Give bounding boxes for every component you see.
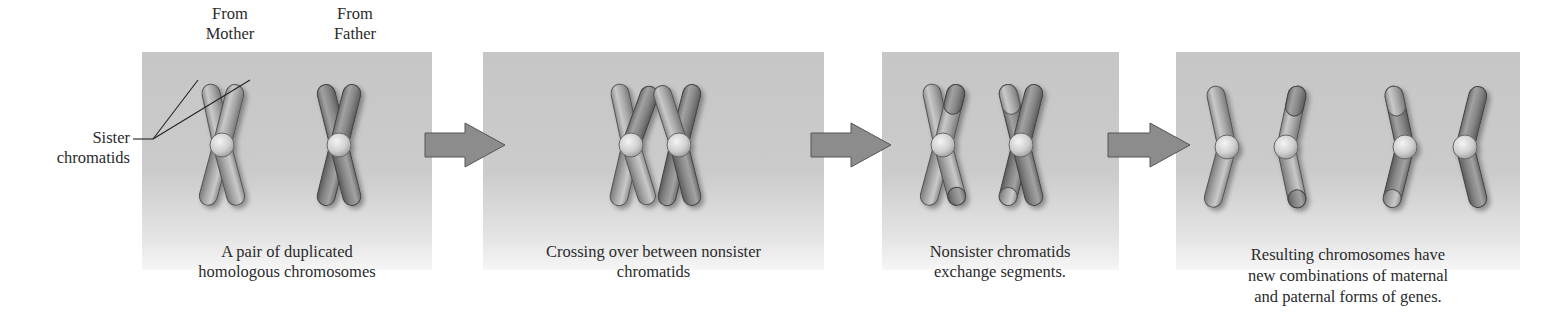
exchanged-maternal-chromosome [918, 82, 967, 207]
result-chromosome-1 [1202, 84, 1239, 209]
arrow-icon [1108, 123, 1190, 167]
result-chromosome-4 [1453, 85, 1489, 210]
paternal-chromosome [315, 83, 362, 208]
label-from-father: From Father [315, 4, 395, 44]
exchanged-paternal-chromosome [997, 83, 1044, 208]
result-chromosome-2 [1274, 84, 1308, 209]
crossing-over-pair [608, 82, 702, 207]
label-sister-chromatids: Sister chromatids [18, 128, 130, 168]
result-chromosome-3 [1381, 84, 1417, 209]
caption-crossing-over: Crossing over between nonsister chromati… [483, 242, 824, 282]
caption-recombinant-chromosomes: Resulting chromosomes have new combinati… [1176, 244, 1520, 307]
label-from-mother: From Mother [190, 4, 270, 44]
caption-segment-exchange: Nonsister chromatids exchange segments. [870, 242, 1130, 282]
arrow-icon [425, 123, 505, 167]
caption-duplicated-pair: A pair of duplicated homologous chromoso… [142, 242, 432, 282]
arrow-icon [811, 123, 891, 167]
maternal-chromosome [197, 82, 246, 207]
